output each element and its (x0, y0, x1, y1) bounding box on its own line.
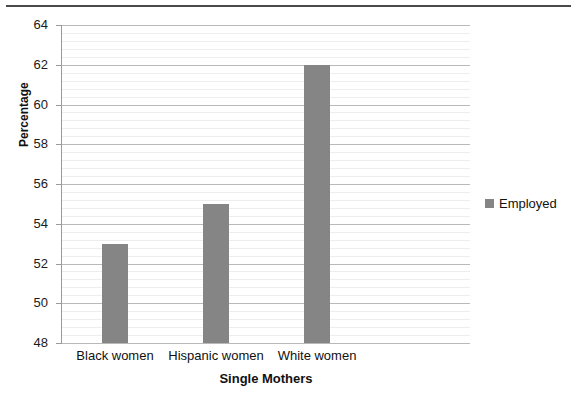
gridline-minor (62, 57, 470, 58)
bar-hispanic-women (203, 204, 229, 343)
gridline-minor (62, 112, 470, 113)
gridline-minor (62, 128, 470, 129)
legend-swatch-employed (485, 199, 494, 208)
gridline-major (62, 144, 470, 145)
y-axis-tick-mark (56, 343, 61, 344)
gridline-major (62, 65, 470, 66)
gridline-minor (62, 160, 470, 161)
gridline-major (62, 105, 470, 106)
y-axis-tick-label: 50 (8, 296, 48, 309)
gridline-minor (62, 136, 470, 137)
y-axis-tick-label: 62 (8, 58, 48, 71)
gridline-major (62, 224, 470, 225)
chart-figure: Percentage 485052545658606264 Black wome… (0, 0, 577, 415)
y-axis-tick-mark (56, 264, 61, 265)
plot-area (62, 25, 470, 343)
gridline-minor (62, 81, 470, 82)
gridline-minor (62, 120, 470, 121)
gridline-major (62, 25, 470, 26)
y-axis-tick-mark (56, 303, 61, 304)
bar-black-women (102, 244, 128, 343)
gridline-minor (62, 41, 470, 42)
gridline-minor (62, 176, 470, 177)
gridline-minor (62, 49, 470, 50)
gridline-minor (62, 89, 470, 90)
gridline-major (62, 343, 470, 344)
y-axis-tick-mark (56, 105, 61, 106)
gridline-minor (62, 192, 470, 193)
y-axis-tick-label: 60 (8, 98, 48, 111)
gridline-minor (62, 208, 470, 209)
top-rule-divider (6, 5, 571, 7)
gridline-minor (62, 152, 470, 153)
legend-label-employed: Employed (499, 197, 557, 210)
gridline-minor (62, 232, 470, 233)
legend[interactable]: Employed (485, 197, 557, 210)
gridline-minor (62, 200, 470, 201)
gridline-minor (62, 168, 470, 169)
y-axis-tick-label: 64 (8, 18, 48, 31)
y-axis-tick-label: 48 (8, 336, 48, 349)
x-axis-title: Single Mothers (62, 372, 470, 385)
y-axis-tick-label: 52 (8, 257, 48, 270)
gridline-major (62, 184, 470, 185)
y-axis-tick-mark (56, 25, 61, 26)
gridline-minor (62, 33, 470, 34)
y-axis-tick-mark (56, 65, 61, 66)
gridline-minor (62, 97, 470, 98)
bar-white-women (304, 65, 330, 343)
gridline-minor (62, 73, 470, 74)
y-axis-tick-label: 58 (8, 137, 48, 150)
y-axis-tick-mark (56, 224, 61, 225)
y-axis-tick-label: 54 (8, 217, 48, 230)
gridline-minor (62, 240, 470, 241)
y-axis-tick-label: 56 (8, 177, 48, 190)
y-axis-tick-mark (56, 184, 61, 185)
gridline-minor (62, 216, 470, 217)
y-axis-tick-mark (56, 144, 61, 145)
x-axis-category-label: White women (242, 349, 392, 362)
